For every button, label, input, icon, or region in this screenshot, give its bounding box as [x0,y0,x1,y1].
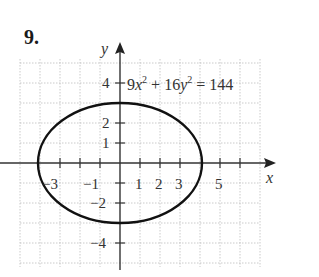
x-tick-label: 1 [135,176,143,192]
ellipse-graph: −3 −1 1 2 3 5 4 2 1 −2 −4 y x 9x2 + 16y2… [0,0,319,277]
y-tick-label: 2 [102,115,110,131]
x-tick-label: −3 [42,176,58,192]
x-tick-label: 3 [175,176,183,192]
y-axis-label: y [99,40,109,58]
x-tick-label: −1 [83,176,99,192]
y-tick-label: −2 [90,195,106,211]
y-tick-label: 4 [102,75,110,91]
x-axis-label: x [265,169,273,186]
equation-annotation: 9x2 + 16y2 = 144 [127,74,233,94]
y-tick-label: −4 [90,235,106,251]
x-tick-label: 2 [155,176,163,192]
x-tick-label: 5 [215,176,223,192]
y-tick-label: 1 [102,135,110,151]
